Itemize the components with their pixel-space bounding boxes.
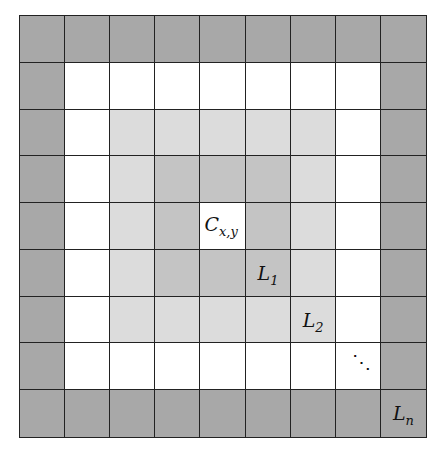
grid-cell-ring-L2: L2: [291, 297, 336, 344]
grid-cell-ring-Ln: [65, 390, 110, 437]
grid-cell-ring-L2: [200, 110, 245, 157]
grid-cell-ring-Ln: [200, 390, 245, 437]
grid-cell-ring-L1: [200, 156, 245, 203]
grid-cell-ring-Ln: [20, 110, 65, 157]
grid-cell-ring-Ln: [20, 16, 65, 63]
grid-cell-ring-white-ring: [336, 110, 381, 157]
grid-cell-ring-Ln: [20, 343, 65, 390]
grid-cell-ring-L1: [200, 250, 245, 297]
grid-cell-ring-white-ring: [65, 250, 110, 297]
grid-cell-ring-Ln: [65, 16, 110, 63]
grid-cell-ring-Ln: [381, 297, 426, 344]
label-l1: L1: [258, 262, 279, 288]
grid-cell-ring-white-ring: [200, 343, 245, 390]
grid-cell-ring-Ln: [381, 16, 426, 63]
label-center: Cx,y: [204, 213, 237, 239]
grid-cell-ring-white-ring: [65, 203, 110, 250]
label-main: L: [393, 402, 406, 424]
grid-cell-ring-white-ring: [291, 343, 336, 390]
grid-cell-ring-white-ring: [291, 63, 336, 110]
grid-cell-ring-Ln: [336, 16, 381, 63]
label-subscript: n: [406, 413, 414, 428]
grid-cell-ring-Ln: [246, 16, 291, 63]
label-dots: ⋱: [352, 351, 371, 373]
label-main: C: [204, 213, 219, 235]
neighborhood-grid: Cx,yL1L2⋱Ln: [19, 15, 427, 438]
label-ln: Ln: [393, 402, 414, 428]
grid-cell-ring-center: Cx,y: [200, 203, 245, 250]
grid-cell-ring-white-ring: [246, 343, 291, 390]
grid-cell-ring-L1: [155, 250, 200, 297]
grid-cell-ring-Ln: [381, 203, 426, 250]
grid-cell-ring-Ln: [246, 390, 291, 437]
grid-cell-ring-Ln: [20, 63, 65, 110]
grid-cell-ring-L2: [110, 110, 155, 157]
grid-cell-ring-white-ring: [65, 63, 110, 110]
grid-cell-ring-Ln: [200, 16, 245, 63]
grid-cell-ring-L2: [155, 110, 200, 157]
grid-cell-ring-white-ring: [65, 297, 110, 344]
grid-cell-ring-Ln: [381, 63, 426, 110]
grid-cell-ring-white-ring: [110, 343, 155, 390]
grid-cell-ring-Ln: [381, 110, 426, 157]
grid-cell-ring-white-ring: ⋱: [336, 343, 381, 390]
grid-cell-ring-Ln: [291, 390, 336, 437]
grid-cell-ring-white-ring: [336, 203, 381, 250]
grid-cell-ring-Ln: [20, 203, 65, 250]
grid-cell-ring-Ln: [20, 390, 65, 437]
grid-cell-ring-L2: [291, 203, 336, 250]
grid-cell-ring-Ln: [155, 390, 200, 437]
grid-cell-ring-L2: [110, 156, 155, 203]
grid-cell-ring-Ln: [110, 390, 155, 437]
grid-cell-ring-Ln: [20, 250, 65, 297]
grid-cell-ring-Ln: [20, 156, 65, 203]
grid-cell-ring-white-ring: [336, 297, 381, 344]
grid-cell-ring-white-ring: [336, 250, 381, 297]
grid-cell-ring-white-ring: [336, 156, 381, 203]
grid-cell-ring-L1: [155, 203, 200, 250]
grid-cell-ring-white-ring: [155, 63, 200, 110]
grid-cell-ring-L2: [155, 297, 200, 344]
grid-cell-ring-Ln: [155, 16, 200, 63]
grid-cell-ring-white-ring: [110, 63, 155, 110]
grid-cell-ring-white-ring: [336, 63, 381, 110]
grid-cell-ring-L2: [291, 156, 336, 203]
grid-cell-ring-Ln: [381, 156, 426, 203]
label-main: L: [258, 262, 271, 284]
label-subscript: x,y: [219, 224, 238, 239]
grid-cell-ring-Ln: [20, 297, 65, 344]
grid-cell-ring-L1: [246, 203, 291, 250]
grid-cell-ring-L1: L1: [246, 250, 291, 297]
grid-cell-ring-Ln: [381, 250, 426, 297]
grid-cell-ring-Ln: [291, 16, 336, 63]
label-subscript: 2: [315, 319, 323, 334]
grid-cell-ring-Ln: [381, 343, 426, 390]
label-subscript: 1: [270, 273, 278, 288]
grid-cell-ring-L2: [291, 110, 336, 157]
label-main: L: [303, 309, 316, 331]
grid-cell-ring-white-ring: [200, 63, 245, 110]
grid-cell-ring-L2: [110, 203, 155, 250]
grid-cell-ring-L2: [246, 297, 291, 344]
label-main: ⋱: [352, 351, 371, 373]
grid-cell-ring-L2: [246, 110, 291, 157]
grid-cell-ring-Ln: [336, 390, 381, 437]
grid-cell-ring-L2: [110, 250, 155, 297]
label-l2: L2: [303, 309, 324, 335]
grid-cell-ring-white-ring: [65, 156, 110, 203]
grid-cell-ring-Ln: Ln: [381, 390, 426, 437]
grid-cell-ring-white-ring: [155, 343, 200, 390]
grid-cell-ring-L1: [155, 156, 200, 203]
grid-cell-ring-white-ring: [246, 63, 291, 110]
grid-cell-ring-Ln: [110, 16, 155, 63]
grid-cell-ring-L2: [110, 297, 155, 344]
grid-cell-ring-L2: [200, 297, 245, 344]
grid-cell-ring-white-ring: [65, 343, 110, 390]
grid-cell-ring-L2: [291, 250, 336, 297]
grid-cell-ring-L1: [246, 156, 291, 203]
grid-cell-ring-white-ring: [65, 110, 110, 157]
